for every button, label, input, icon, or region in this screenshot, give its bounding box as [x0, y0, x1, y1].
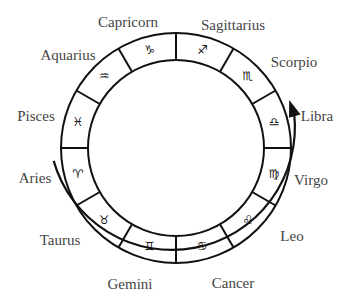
label-gemini: Gemini — [108, 277, 153, 292]
label-taurus: Taurus — [40, 233, 81, 248]
libra-symbol-icon: ♎ — [269, 116, 280, 128]
virgo-symbol-icon: ♍ — [269, 168, 280, 180]
gemini-symbol-icon: ♊ — [144, 240, 155, 252]
label-capricorn: Capricorn — [98, 15, 158, 30]
arrow-head-icon — [289, 100, 301, 118]
scorpio-symbol-icon: ♏ — [242, 70, 253, 82]
aquarius-symbol-icon: ♒ — [99, 70, 110, 82]
label-leo: Leo — [280, 229, 303, 244]
label-pisces: Pisces — [17, 109, 55, 124]
label-aquarius: Aquarius — [41, 48, 96, 63]
outer-ring — [61, 33, 291, 263]
pisces-symbol-icon: ♓ — [73, 116, 84, 128]
cancer-symbol-icon: ♋ — [197, 240, 208, 252]
leo-symbol-icon: ♌ — [242, 214, 253, 226]
label-sagittarius: Sagittarius — [201, 18, 265, 33]
zodiac-wheel-diagram: ♑Capricorn♐Sagittarius♏Scorpio♎Libra♍Vir… — [0, 0, 358, 304]
capricorn-symbol-icon: ♑ — [144, 44, 155, 56]
inner-ring — [88, 60, 264, 236]
sector-divider — [119, 224, 133, 247]
sector-divider — [119, 48, 133, 71]
sagittarius-symbol-icon: ♐ — [197, 44, 208, 56]
label-scorpio: Scorpio — [271, 55, 318, 70]
sector-divider — [76, 91, 99, 105]
sector-divider — [76, 192, 99, 206]
sector-divider — [252, 91, 275, 105]
label-cancer: Cancer — [212, 276, 254, 291]
label-aries: Aries — [19, 171, 52, 186]
label-virgo: Virgo — [294, 173, 328, 188]
taurus-symbol-icon: ♉ — [99, 214, 110, 226]
label-libra: Libra — [301, 109, 333, 124]
sector-divider — [220, 48, 234, 71]
aries-symbol-icon: ♈ — [73, 168, 84, 180]
